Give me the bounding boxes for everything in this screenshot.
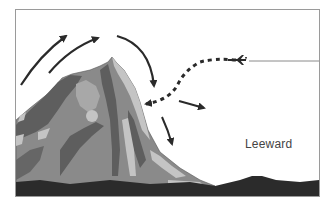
leeward-label: Leeward [245,137,292,151]
lee-downdraft-arrow [162,117,172,144]
lee-eddy-arrow [179,101,204,108]
airplane-icon [228,55,247,65]
upslope-arrow-outer [21,36,66,85]
mountain-wave-diagram [0,0,327,205]
flight-path-dashed-arrow [146,59,236,104]
